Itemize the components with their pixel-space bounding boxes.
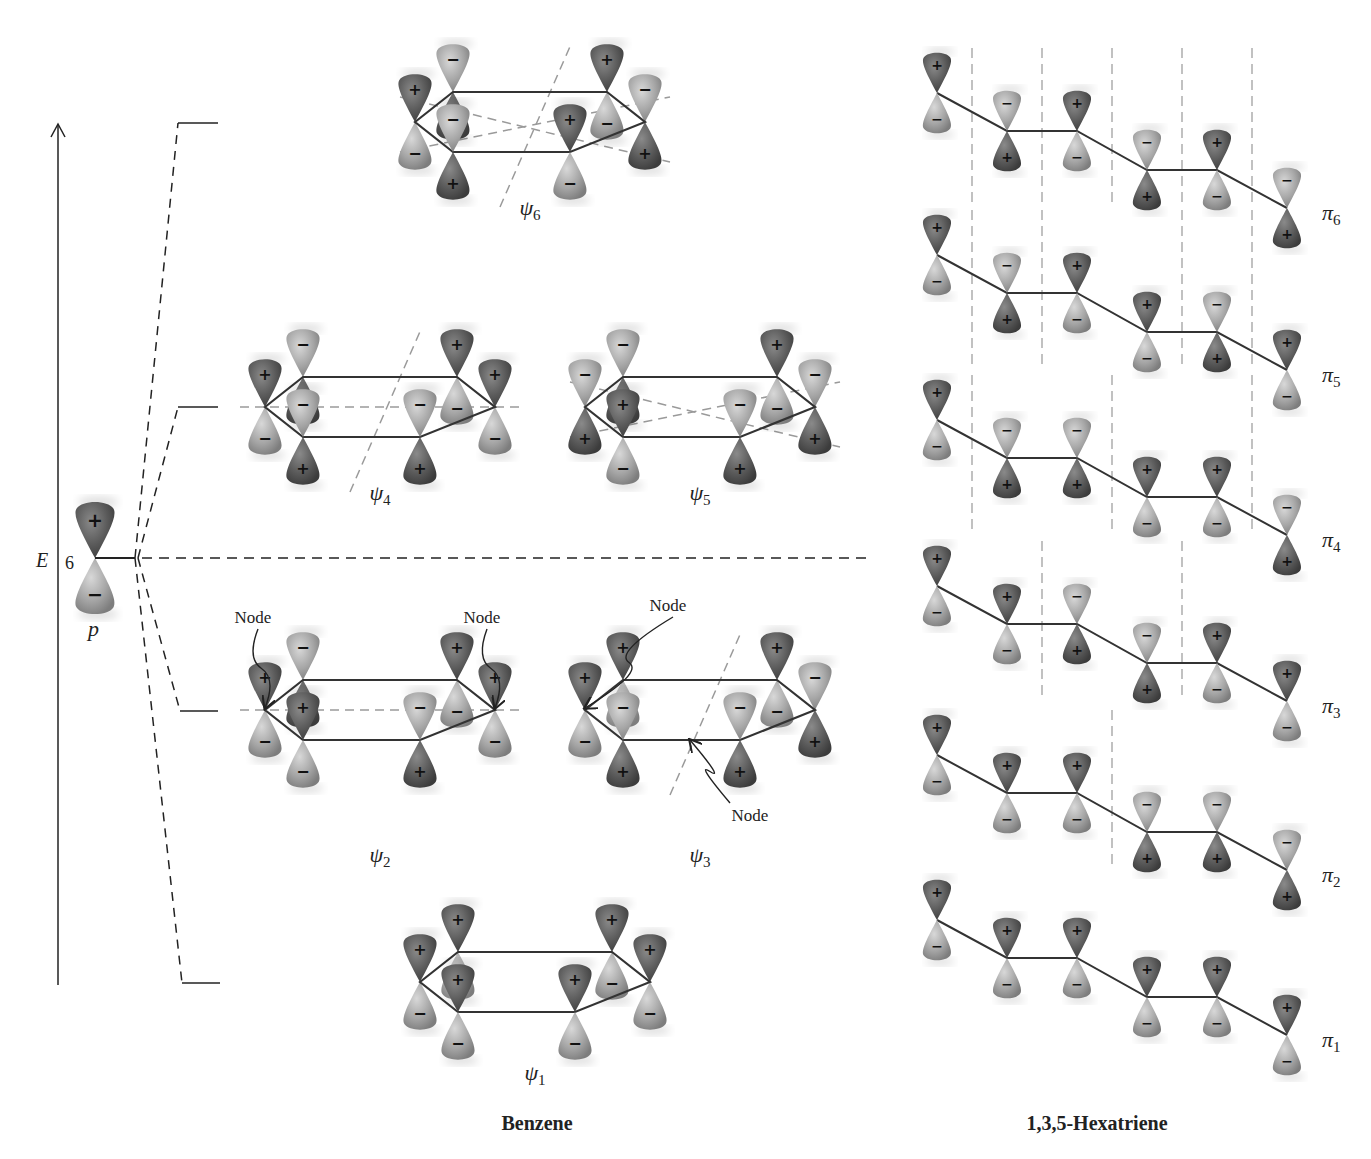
plus-sign: + [296, 698, 309, 717]
mo-label: ψ1 [524, 1060, 545, 1088]
minus-sign: − [931, 773, 943, 789]
node-annotation: Node [650, 596, 687, 615]
carbon-chain [937, 586, 1287, 701]
plus-sign: + [1001, 757, 1013, 773]
plus-sign: + [1141, 461, 1153, 477]
plus-sign: + [1071, 757, 1083, 773]
node-annotation: Node [464, 608, 501, 627]
plus-sign: + [1001, 476, 1013, 492]
minus-sign: − [258, 732, 271, 751]
minus-sign: − [1281, 1053, 1293, 1069]
mo-label: π2 [1322, 862, 1341, 890]
p-orbital: −+ [633, 929, 670, 1036]
mo-label: π5 [1322, 362, 1341, 390]
plus-sign: + [450, 335, 463, 354]
mo-label: π6 [1322, 200, 1341, 228]
carbon-chain [937, 420, 1287, 535]
hexatriene-mos: −++−−++−−++−π6−++−−+−++−−+π5−++−+−−+−++−… [923, 47, 1341, 1081]
plus-sign: + [488, 365, 501, 384]
plus-sign: + [931, 719, 943, 735]
minus-sign: − [931, 438, 943, 454]
minus-sign: − [413, 1004, 426, 1023]
minus-sign: − [931, 604, 943, 620]
minus-sign: − [1141, 134, 1153, 150]
minus-sign: − [1001, 95, 1013, 111]
plus-sign: + [296, 459, 309, 478]
plus-sign: + [1141, 188, 1153, 204]
minus-sign: − [1141, 515, 1153, 531]
plus-sign: + [413, 762, 426, 781]
minus-sign: − [1211, 188, 1223, 204]
p-orbital: −+ [403, 929, 440, 1036]
plus-sign: + [931, 884, 943, 900]
plus-sign: + [578, 429, 591, 448]
plus-sign: + [931, 219, 943, 235]
mo-label: ψ4 [369, 480, 391, 508]
plus-sign: + [1211, 461, 1223, 477]
minus-sign: − [296, 638, 309, 657]
carbon-chain [937, 755, 1287, 870]
minus-sign: − [450, 399, 463, 418]
plus-sign: + [451, 910, 464, 929]
p-orbital: −+ [568, 657, 605, 764]
plus-sign: + [1281, 226, 1293, 242]
minus-sign: − [1211, 515, 1223, 531]
minus-sign: − [1071, 149, 1083, 165]
mo-label: π3 [1322, 693, 1341, 721]
plus-sign: + [1211, 961, 1223, 977]
plus-sign: + [578, 668, 591, 687]
plus-sign: + [1141, 296, 1153, 312]
plus-sign: + [770, 638, 783, 657]
minus-sign: − [296, 335, 309, 354]
carbon-chain [937, 255, 1287, 370]
minus-sign: − [616, 459, 629, 478]
p-orbital: +− [1273, 489, 1305, 581]
plus-sign: + [1071, 95, 1083, 111]
plus-sign: + [808, 429, 821, 448]
benzene-mos: +−−+−++−+−−+ψ6+−−+−+−++−+−ψ4+−−++−+−−++−… [235, 39, 840, 1088]
minus-sign: − [1281, 172, 1293, 188]
minus-sign: − [808, 365, 821, 384]
minus-sign: − [1141, 796, 1153, 812]
plus-sign: + [770, 335, 783, 354]
minus-sign: − [1141, 350, 1153, 366]
mo-label: ψ3 [689, 842, 710, 870]
plus-sign: + [87, 509, 103, 531]
plus-sign: + [563, 110, 576, 129]
minus-sign: − [605, 974, 618, 993]
minus-sign: − [296, 762, 309, 781]
mo-psi2: +−−+−+−+−++−ψ2NodeNode [235, 608, 520, 870]
plus-sign: + [1211, 850, 1223, 866]
plus-sign: + [446, 174, 459, 193]
p-orbital: +− [568, 354, 605, 461]
plus-sign: + [808, 732, 821, 751]
minus-sign: − [1281, 719, 1293, 735]
node-annotation: Node [235, 608, 272, 627]
plus-sign: + [1281, 999, 1293, 1015]
minus-sign: − [413, 698, 426, 717]
plus-sign: + [1001, 311, 1013, 327]
minus-sign: − [1001, 257, 1013, 273]
p-orbital: +− [1273, 824, 1305, 916]
minus-sign: − [616, 698, 629, 717]
minus-sign: − [258, 429, 271, 448]
mo-label: ψ6 [519, 195, 541, 223]
plus-sign: + [931, 57, 943, 73]
plus-sign: + [1071, 476, 1083, 492]
benzene-title: Benzene [501, 1112, 572, 1134]
mo-pi6: −++−−++−−++−π6 [923, 47, 1341, 254]
plus-sign: + [451, 970, 464, 989]
minus-sign: − [1211, 681, 1223, 697]
minus-sign: − [1141, 1015, 1153, 1031]
plus-sign: + [413, 459, 426, 478]
minus-sign: − [296, 395, 309, 414]
link-psi45 [138, 407, 178, 558]
minus-sign: − [1141, 627, 1153, 643]
minus-sign: − [770, 399, 783, 418]
minus-sign: − [578, 365, 591, 384]
minus-sign: − [931, 938, 943, 954]
mo-psi5: +−−++−+−−++−ψ5 [568, 324, 840, 508]
plus-sign: + [1281, 888, 1293, 904]
node-annotation: Node [732, 806, 769, 825]
link-psi6 [135, 123, 178, 558]
